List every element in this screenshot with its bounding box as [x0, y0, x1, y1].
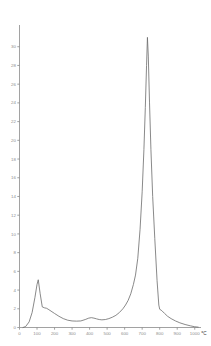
- x-tick-label: 100: [33, 331, 41, 336]
- y-tick-label: 8: [13, 250, 16, 255]
- y-tick-label: 22: [11, 119, 16, 124]
- chart-plot-area: 024681012141618202224262830 010020030040…: [0, 0, 211, 346]
- y-tick-label: 28: [11, 63, 16, 68]
- y-tick-label: 24: [11, 100, 16, 105]
- x-axis-tick-labels: 01002003004005006007008009001000: [18, 331, 200, 336]
- y-axis-tick-labels: 024681012141618202224262830: [11, 44, 16, 330]
- y-tick-label: 10: [11, 232, 16, 237]
- data-curve-path: [23, 37, 198, 327]
- x-tick-label: 600: [121, 331, 129, 336]
- y-tick-label: 0: [13, 325, 16, 330]
- y-tick-label: 14: [11, 194, 16, 199]
- x-tick-label: 900: [174, 331, 182, 336]
- y-tick-label: 26: [11, 82, 16, 87]
- x-tick-label: 200: [51, 331, 59, 336]
- x-tick-label: 0: [18, 331, 21, 336]
- x-tick-label: 400: [86, 331, 94, 336]
- y-tick-label: 18: [11, 157, 16, 162]
- thermal-analysis-chart: 024681012141618202224262830 010020030040…: [0, 0, 211, 346]
- x-tick-label: 500: [103, 331, 111, 336]
- y-tick-label: 4: [13, 288, 16, 293]
- x-axis-unit-label: ℃: [201, 331, 207, 336]
- x-unit-label: ℃: [201, 331, 207, 336]
- x-tick-label: 800: [156, 331, 164, 336]
- y-tick-label: 2: [13, 306, 16, 311]
- y-tick-label: 12: [11, 213, 16, 218]
- data-series-curve: [23, 37, 198, 327]
- x-tick-label: 300: [68, 331, 76, 336]
- y-tick-label: 16: [11, 175, 16, 180]
- x-tick-label: 1000: [190, 331, 200, 336]
- x-tick-label: 700: [139, 331, 147, 336]
- y-tick-label: 20: [11, 138, 16, 143]
- y-tick-label: 6: [13, 269, 16, 274]
- y-tick-label: 30: [11, 44, 16, 49]
